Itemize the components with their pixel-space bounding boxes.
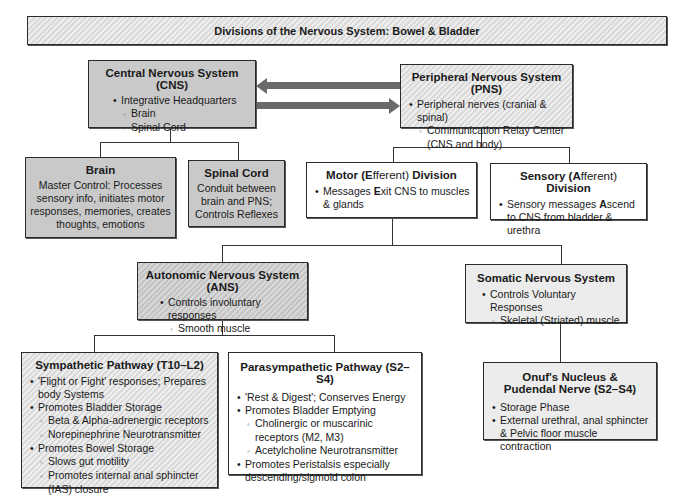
parasympathetic-pathway-box: Parasympathetic Pathway (S2–S4) 'Rest & …: [228, 352, 422, 475]
brain-description: Master Control: Processes sensory info, …: [30, 179, 171, 231]
ans-box: Autonomic Nervous System (ANS) Controls …: [137, 262, 308, 320]
sympathetic-heading: Sympathetic Pathway (T10–L2): [28, 359, 211, 371]
sensory-division-box: Sensory (Afferent) Division Sensory mess…: [490, 163, 647, 220]
cns-subitem: Brain: [111, 107, 247, 121]
motor-heading-letter: E: [365, 169, 373, 181]
diagram-title: Divisions of the Nervous System: Bowel &…: [214, 25, 479, 37]
connector-motor-branch: [222, 245, 561, 246]
onufs-heading-line1: Onuf's Nucleus &: [490, 371, 650, 383]
spinal-cord-box: Spinal Cord Conduit between brain and PN…: [188, 160, 285, 227]
onufs-line: External urethral, anal sphincter & Pelv…: [490, 414, 650, 453]
motor-heading-part: fferent): [373, 169, 412, 181]
ans-item: Controls involuntary responses: [158, 296, 301, 322]
motor-item: Messages Exit CNS to muscles & glands: [313, 185, 470, 211]
sensory-heading-part: fferent): [581, 170, 617, 182]
connector-to-ans: [222, 245, 223, 262]
motor-division-box: Motor (Efferent) Division Messages Exit …: [306, 162, 477, 218]
connector-cns-branch: [100, 142, 238, 143]
cns-box: Central Nervous System (CNS) Integrative…: [88, 60, 256, 128]
sensory-item: Sensory messages Ascend to CNS from blad…: [497, 198, 640, 237]
somatic-subitem: Skeletal (Striated) muscle: [480, 314, 620, 328]
connector-to-parasympathetic: [334, 335, 335, 352]
onufs-line: Storage Phase: [490, 401, 650, 414]
pns-box: Peripheral Nervous System (PNS) Peripher…: [400, 64, 573, 128]
pns-heading: Peripheral Nervous System (PNS): [407, 71, 566, 95]
motor-heading: Motor (Efferent) Division: [313, 169, 470, 181]
diagram-title-bar: Divisions of the Nervous System: Bowel &…: [27, 16, 667, 45]
arrow-pns-to-cns: [266, 82, 400, 89]
sensory-heading-part: Division: [546, 182, 591, 194]
sympathetic-line: Promotes Bowel Storage: [28, 442, 211, 455]
somatic-item: Controls Voluntary Responses: [480, 288, 620, 314]
brain-box: Brain Master Control: Processes sensory …: [25, 157, 176, 238]
brain-heading: Brain: [30, 164, 171, 176]
parasympathetic-line: Acetylcholine Neurotransmitter: [235, 444, 415, 458]
ans-heading: Autonomic Nervous System (ANS): [144, 269, 301, 293]
parasympathetic-line: Cholinergic or muscarinic receptors (M2,…: [235, 417, 415, 444]
arrow-right-head-icon: [389, 98, 400, 114]
connector-to-motor: [393, 147, 394, 162]
parasympathetic-line: 'Rest & Digest'; Conserves Energy: [235, 391, 415, 404]
sympathetic-line: Beta & Alpha-adrenergic receptors: [28, 414, 211, 428]
connector-to-sympathetic: [94, 335, 95, 352]
spinal-cord-heading: Spinal Cord: [192, 167, 281, 179]
motor-heading-part: Motor (: [326, 169, 365, 181]
somatic-box: Somatic Nervous System Controls Voluntar…: [465, 264, 627, 323]
arrow-cns-to-pns: [256, 102, 390, 109]
onufs-heading-line2: Pudendal Nerve (S2–S4): [490, 383, 650, 395]
sympathetic-line: 'Flight or Fight' responses; Prepares bo…: [28, 375, 211, 401]
parasympathetic-line: Promotes Bladder Emptying: [235, 404, 415, 417]
sensory-heading: Sensory (Afferent) Division: [497, 170, 640, 194]
motor-heading-part: Division: [412, 169, 457, 181]
sensory-item-letter: A: [599, 198, 607, 210]
sympathetic-line: Norepinephrine Neurotransmitter: [28, 428, 211, 442]
cns-subitem: Spinal Cord: [111, 121, 247, 135]
sympathetic-pathway-box: Sympathetic Pathway (T10–L2) 'Flight or …: [21, 352, 218, 488]
cns-heading: Central Nervous System (CNS): [97, 67, 247, 91]
connector-somatic-down: [560, 323, 561, 362]
parasympathetic-line: Promotes Peristalsis especially descendi…: [235, 458, 415, 484]
sympathetic-line: Promotes internal anal sphincter (IAS) c…: [28, 469, 211, 496]
sympathetic-line: Slows gut motility: [28, 455, 211, 469]
parasympathetic-heading: Parasympathetic Pathway (S2–S4): [235, 361, 415, 385]
connector-motor-down: [392, 218, 393, 245]
ans-subitem: Smooth muscle: [158, 322, 301, 336]
pns-subitem: Communication Relay Center (CNS and body…: [407, 124, 566, 151]
connector-to-somatic: [561, 245, 562, 264]
pns-item: Peripheral nerves (cranial & spinal): [407, 98, 566, 124]
connector-to-brain: [100, 142, 101, 157]
sensory-item-text: Sensory messages: [507, 198, 599, 210]
sympathetic-line: Promotes Bladder Storage: [28, 401, 211, 414]
spinal-cord-description: Conduit between brain and PNS; Controls …: [192, 182, 281, 221]
motor-item-letter: E: [374, 185, 381, 197]
cns-item: Integrative Headquarters: [111, 94, 247, 107]
connector-to-spinal-cord: [238, 142, 239, 160]
motor-item-text: Messages: [323, 185, 374, 197]
somatic-heading: Somatic Nervous System: [472, 272, 620, 284]
sensory-heading-letter: A: [572, 170, 580, 182]
onufs-nucleus-box: Onuf's Nucleus & Pudendal Nerve (S2–S4) …: [483, 362, 657, 440]
connector-to-sensory: [569, 147, 570, 163]
sensory-heading-part: Sensory (: [520, 170, 572, 182]
